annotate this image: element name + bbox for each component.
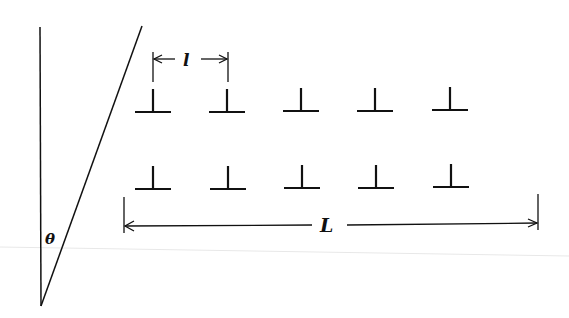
edge-dislocation-icon bbox=[135, 89, 171, 112]
length-L-label: L bbox=[319, 214, 333, 236]
edge-dislocation-icon bbox=[283, 88, 319, 111]
edge-dislocation-icon bbox=[210, 166, 246, 189]
diagram-svg: θ l L bbox=[0, 0, 569, 318]
length-arrow-left-shaft bbox=[125, 225, 312, 226]
tilted-boundary-line bbox=[41, 26, 142, 306]
spacing-l-label: l bbox=[183, 50, 190, 70]
edge-dislocation-icon bbox=[432, 87, 468, 110]
vertical-reference-line bbox=[40, 27, 41, 306]
edge-dislocation-icon bbox=[358, 165, 394, 188]
edge-dislocation-icon bbox=[433, 164, 469, 187]
theta-label: θ bbox=[45, 230, 55, 248]
edge-dislocation-icon bbox=[135, 166, 171, 189]
length-arrow-right-shaft bbox=[347, 223, 537, 225]
dislocation-wall-diagram: θ l L bbox=[0, 0, 569, 318]
scan-artifact-line bbox=[0, 247, 569, 256]
edge-dislocation-icon bbox=[284, 165, 320, 188]
edge-dislocation-icon bbox=[209, 89, 245, 112]
dislocation-array bbox=[135, 87, 469, 189]
edge-dislocation-icon bbox=[357, 88, 393, 111]
